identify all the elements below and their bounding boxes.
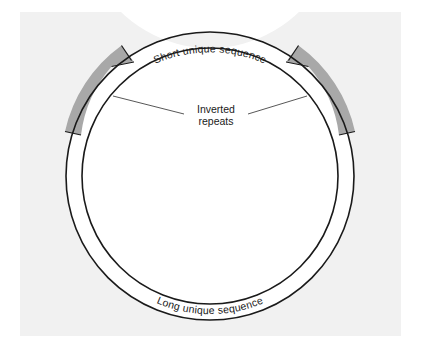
inverted-repeats-label-line1: Inverted [197, 103, 235, 115]
figure-container: Short unique sequence Long unique sequen… [0, 0, 424, 351]
circular-genome-diagram: Short unique sequence Long unique sequen… [0, 0, 424, 351]
inverted-repeats-label-line2: repeats [198, 115, 233, 127]
